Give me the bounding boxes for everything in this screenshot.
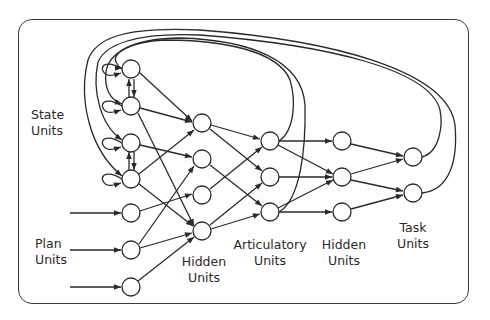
articulatory-units-nodes	[261, 132, 279, 221]
hidden-unit-node	[333, 168, 351, 186]
hidden-units-2-label: Hidden Units	[316, 237, 372, 269]
plan-unit-node	[122, 204, 140, 222]
hidden-unit-node	[333, 132, 351, 150]
task-unit-node	[404, 184, 422, 202]
plan-units-nodes	[122, 204, 140, 296]
state-unit-node	[122, 170, 140, 188]
hidden-unit-node	[193, 150, 211, 168]
hidden-unit-node	[193, 186, 211, 204]
articulatory-units-label: Articulatory Units	[230, 237, 310, 269]
state-mutual-links	[129, 79, 134, 170]
state-units-nodes	[122, 60, 140, 188]
state-unit-node	[122, 60, 140, 78]
hidden-unit-node	[193, 222, 211, 240]
hidden-units-2-nodes	[333, 132, 351, 221]
state-units-label: State Units	[31, 107, 64, 139]
articulatory-unit-node	[261, 132, 279, 150]
task-units-nodes	[404, 148, 422, 202]
task-unit-node	[404, 148, 422, 166]
hidden-units-1-nodes	[193, 114, 211, 240]
hidden-unit-node	[333, 203, 351, 221]
plan-unit-node	[122, 241, 140, 259]
input-arrows	[70, 213, 121, 287]
task-units-label: Task Units	[390, 220, 436, 252]
state-unit-node	[122, 97, 140, 115]
hidden-units-1-label: Hidden Units	[176, 254, 232, 286]
hidden-unit-node	[193, 114, 211, 132]
state-unit-node	[122, 134, 140, 152]
articulatory-unit-node	[261, 203, 279, 221]
articulatory-unit-node	[261, 168, 279, 186]
plan-unit-node	[122, 278, 140, 296]
network-diagram	[0, 0, 490, 320]
plan-units-label: Plan Units	[35, 236, 67, 268]
